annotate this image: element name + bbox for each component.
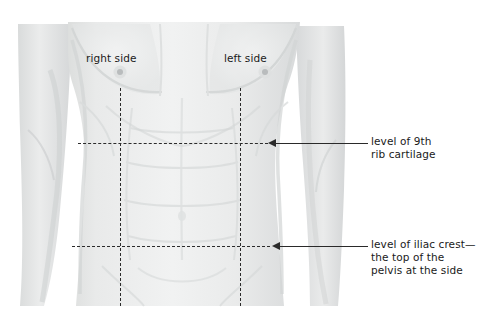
guide-horizontal-ninth-rib [78,143,268,144]
callout-iliac-crest-line-3: pelvis at the side [371,264,476,277]
label-right-side: right side [86,52,137,64]
torso-illustration [10,10,348,308]
arrow-head-iliac-crest [272,242,280,250]
arrow-head-ninth-rib [268,139,276,147]
guide-horizontal-iliac-crest [72,246,270,247]
callout-ninth-rib-line-1: level of 9th [371,135,436,148]
callout-ninth-rib-cartilage: level of 9th rib cartilage [371,135,436,161]
navel [178,211,186,221]
label-left-side: left side [224,52,267,64]
callout-iliac-crest-line-1: level of iliac crest— [371,238,476,251]
diagram-page: right side left side level of 9th rib ca… [0,0,490,319]
guide-vertical-left [240,88,241,306]
arm-right-shape [296,26,346,306]
arm-left-shape [18,24,72,306]
leader-line-iliac-crest [280,246,368,247]
nipple-right [114,66,127,79]
leader-line-ninth-rib [276,143,368,144]
guide-vertical-right [120,88,121,306]
nipple-left [259,66,272,79]
callout-iliac-crest-line-2: the top of the [371,251,476,264]
callout-iliac-crest: level of iliac crest— the top of the pel… [371,238,476,278]
callout-ninth-rib-line-2: rib cartilage [371,148,436,161]
